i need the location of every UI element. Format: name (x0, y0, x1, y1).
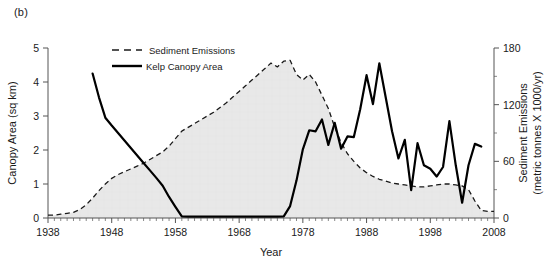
x-tick-label: 2008 (482, 226, 506, 238)
y-axis-title-right-line2: (metric tonnes X 1000/yr) (531, 71, 543, 195)
x-tick-label: 1938 (36, 226, 60, 238)
x-tick-label: 1978 (291, 226, 315, 238)
y-tick-label-right: 0 (503, 212, 509, 224)
y-axis-title-right-line1: Sediment Emissions (517, 83, 529, 183)
panel-label: (b) (14, 6, 28, 18)
x-tick-label: 1988 (355, 226, 379, 238)
y-tick-label-left: 2 (33, 144, 39, 156)
y-tick-label-left: 5 (33, 42, 39, 54)
x-axis-title: Year (260, 246, 283, 258)
chart-legend: Sediment EmissionsKelp Canopy Area (112, 45, 235, 72)
x-tick-label: 1958 (164, 226, 188, 238)
legend-label-kelp-canopy-area: Kelp Canopy Area (146, 61, 223, 72)
sediment-area-fill (48, 60, 494, 218)
y-axis-title-left: Canopy Area (sq km) (6, 81, 18, 184)
y-tick-label-left: 1 (33, 178, 39, 190)
legend-label-sediment-emissions: Sediment Emissions (149, 45, 235, 56)
y-tick-label-left: 0 (33, 212, 39, 224)
x-tick-label: 1998 (419, 226, 443, 238)
y-tick-label-right: 60 (503, 155, 515, 167)
y-tick-label-left: 4 (33, 76, 39, 88)
x-tick-label: 1968 (227, 226, 251, 238)
chart-canvas: 19381948195819681978198819982008Year0123… (0, 0, 560, 275)
y-tick-label-right: 180 (503, 42, 521, 54)
figure-panel: (b) 19381948195819681978198819982008Year… (0, 0, 560, 275)
x-tick-label: 1948 (100, 226, 124, 238)
y-tick-label-left: 3 (33, 110, 39, 122)
